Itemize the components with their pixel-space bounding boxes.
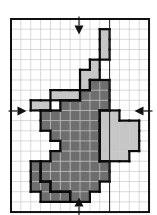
grid-cell — [80, 161, 90, 171]
grid-cell — [31, 100, 41, 110]
grid-cell — [90, 171, 100, 181]
grid-cell — [110, 121, 120, 131]
grid-cell — [31, 182, 41, 192]
grid-cell — [80, 70, 90, 80]
grid-cell — [90, 70, 100, 80]
grid-cell — [70, 100, 80, 110]
grid-cell — [60, 171, 70, 181]
grid-cell — [50, 90, 60, 100]
grid-cell — [90, 100, 100, 110]
grid-cell — [60, 110, 70, 120]
grid-cell — [60, 131, 70, 141]
grid-diagram — [0, 0, 157, 215]
grid-cell — [90, 141, 100, 151]
grid-cell — [41, 171, 51, 181]
grid-cell — [90, 80, 100, 90]
grid-cell — [129, 121, 139, 131]
grid-cell — [60, 151, 70, 161]
grid-cell — [50, 171, 60, 181]
grid-cell — [100, 161, 110, 171]
grid-cell — [119, 141, 129, 151]
grid-cell — [50, 131, 60, 141]
grid-cell — [50, 110, 60, 120]
grid-cell — [60, 182, 70, 192]
grid-cell — [129, 141, 139, 151]
grid-cell — [90, 151, 100, 161]
grid-cell — [100, 121, 110, 131]
grid-cell — [41, 110, 51, 120]
grid-cell — [70, 182, 80, 192]
grid-cell — [100, 49, 110, 59]
grid-cell — [41, 182, 51, 192]
grid-cell — [41, 161, 51, 171]
grid-cell — [110, 141, 120, 151]
grid-cell — [90, 131, 100, 141]
grid-cell — [100, 100, 110, 110]
grid-cell — [80, 100, 90, 110]
grid-cell — [41, 121, 51, 131]
grid-cell — [90, 60, 100, 70]
grid-cell — [100, 131, 110, 141]
grid-cell — [110, 151, 120, 161]
grid-cell — [70, 121, 80, 131]
grid-cell — [129, 131, 139, 141]
grid-cell — [80, 182, 90, 192]
grid-cell — [50, 161, 60, 171]
grid-cell — [80, 141, 90, 151]
grid-cell — [70, 90, 80, 100]
grid-cell — [90, 90, 100, 100]
grid-cell — [100, 39, 110, 49]
grid-cell — [119, 151, 129, 161]
grid-cell — [100, 90, 110, 100]
grid-cell — [110, 110, 120, 120]
grid-cell — [80, 80, 90, 90]
grid-cell — [80, 110, 90, 120]
grid-cell — [50, 151, 60, 161]
grid-cell — [80, 121, 90, 131]
grid-cell — [100, 151, 110, 161]
grid-cell — [70, 171, 80, 181]
grid-cell — [110, 131, 120, 141]
grid-cell — [60, 161, 70, 171]
grid-cell — [90, 161, 100, 171]
grid-cell — [70, 110, 80, 120]
grid-cell — [100, 80, 110, 90]
grid-cell — [50, 192, 60, 202]
grid-cell — [80, 90, 90, 100]
grid-cell — [31, 171, 41, 181]
grid-cell — [70, 131, 80, 141]
grid-cell — [60, 141, 70, 151]
grid-cell — [80, 131, 90, 141]
grid-cell — [90, 182, 100, 192]
grid-cell — [100, 171, 110, 181]
grid-cell — [90, 110, 100, 120]
grid-cell — [60, 100, 70, 110]
grid-cell — [100, 141, 110, 151]
grid-cell — [70, 161, 80, 171]
grid-cell — [70, 151, 80, 161]
grid-cell — [60, 192, 70, 202]
grid-cell — [100, 29, 110, 39]
grid-cell — [70, 141, 80, 151]
grid-cell — [80, 151, 90, 161]
grid-cell — [80, 171, 90, 181]
grid-cell — [80, 192, 90, 202]
grid-cell — [41, 100, 51, 110]
grid-cell — [60, 121, 70, 131]
grid-cell — [119, 121, 129, 131]
grid-cell — [60, 90, 70, 100]
grid-cell — [31, 161, 41, 171]
grid-cell — [50, 182, 60, 192]
grid-cell — [90, 121, 100, 131]
grid-cell — [41, 192, 51, 202]
grid-cell — [100, 110, 110, 120]
grid-cell — [119, 131, 129, 141]
grid-cell — [50, 121, 60, 131]
